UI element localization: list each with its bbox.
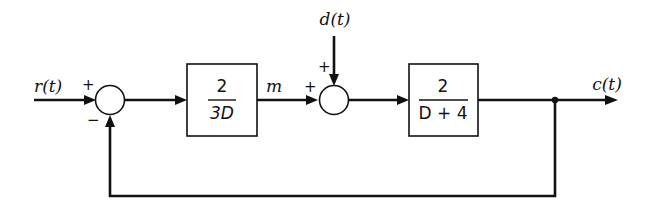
feedback-arrowhead — [105, 115, 115, 127]
m-arrowhead — [306, 95, 318, 105]
input-signal-label: r(t) — [34, 76, 62, 96]
sum1-minus-sign: − — [87, 111, 100, 129]
sum1-plus-sign: + — [82, 76, 95, 94]
sum2-plus-sign-d: + — [318, 58, 331, 76]
controller-denominator: 3D — [210, 103, 234, 123]
input-arrowhead — [84, 95, 96, 105]
plant-input-arrowhead — [397, 95, 409, 105]
m-signal-label: m — [266, 76, 282, 96]
plant-numerator: 2 — [438, 76, 449, 96]
output-arrowhead — [605, 95, 618, 105]
disturbance-signal-label: d(t) — [320, 9, 351, 29]
sum2-plus-sign-m: + — [304, 78, 317, 96]
output-signal-label: c(t) — [592, 74, 622, 94]
plant-denominator: D + 4 — [419, 103, 468, 123]
summing-junction-1 — [96, 86, 125, 115]
controller-numerator: 2 — [217, 76, 228, 96]
error-arrowhead — [175, 95, 187, 105]
summing-junction-2 — [320, 86, 349, 115]
block-diagram: r(t) + − 2 3D m + d(t) + 2 D + 4 c(t) — [0, 0, 648, 210]
